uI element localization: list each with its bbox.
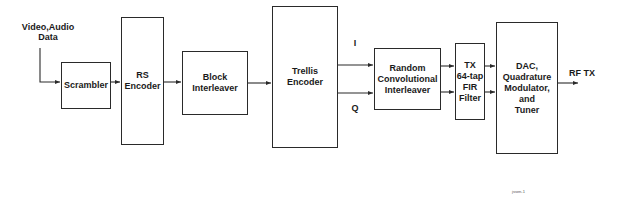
trellis-encoder-block: Trellis Encoder [272, 6, 338, 148]
tx-fir-filter-block: TX 64-tap FIR Filter [455, 43, 485, 120]
dac-modulator-tuner-block: DAC, Quadrature Modulator, and Tuner [496, 22, 558, 154]
i-channel-label: I [350, 38, 360, 48]
random-convolutional-interleaver-block: Random Convolutional Interleaver [374, 48, 441, 110]
figure-id-label: jssen-1 [512, 189, 525, 194]
block-interleaver-block: Block Interleaver [182, 51, 248, 115]
rs-encoder-block: RS Encoder [121, 17, 164, 145]
scrambler-block: Scrambler [61, 62, 111, 109]
q-channel-label: Q [350, 103, 360, 113]
output-label: RF TX [564, 68, 600, 78]
input-label: Video,Audio Data [18, 22, 78, 42]
